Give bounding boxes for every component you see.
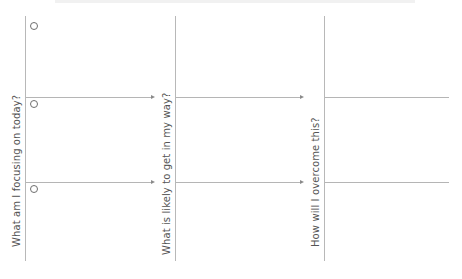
row2-connector-3 (325, 182, 449, 183)
column-divider-3 (324, 16, 325, 261)
row-marker-circle-icon[interactable] (30, 100, 38, 108)
arrow-right-icon (151, 180, 155, 184)
arrow-right-icon (300, 180, 304, 184)
arrow-right-icon (300, 95, 304, 99)
column-label-focus: What am I focusing on today? (11, 95, 22, 247)
row-marker-circle-icon[interactable] (30, 185, 38, 193)
row2-connector-1 (26, 182, 151, 183)
row2-connector-2 (176, 182, 300, 183)
column-label-obstacles: What is likely to get in my way? (161, 93, 172, 255)
column-label-overcome: How will I overcome this? (310, 117, 321, 247)
row1-connector-1 (26, 97, 151, 98)
column-divider-1 (25, 16, 26, 261)
row-marker-circle-icon[interactable] (30, 22, 38, 30)
top-edge-strip (55, 0, 415, 3)
row1-connector-2 (176, 97, 300, 98)
row1-connector-3 (325, 97, 449, 98)
column-divider-2 (175, 16, 176, 261)
arrow-right-icon (151, 95, 155, 99)
